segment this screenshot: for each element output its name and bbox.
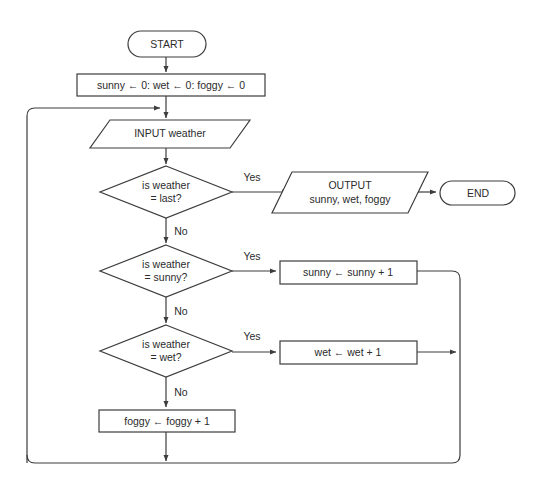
node-input-weather[interactable]: INPUT weather <box>90 120 250 148</box>
node-increment-sunny-label: sunny ← sunny + 1 <box>303 266 393 278</box>
node-output-counts[interactable]: OUTPUT sunny, wet, foggy <box>272 172 428 213</box>
node-init-label: sunny ← 0: wet ← 0: foggy ← 0 <box>97 79 245 91</box>
node-decision-last-label-line1: is weather <box>142 179 190 191</box>
node-decision-wet-label-line1: is weather <box>142 338 190 350</box>
node-decision-last[interactable]: is weather = last? <box>100 166 232 218</box>
node-input-weather-label: INPUT weather <box>134 127 206 139</box>
edge-label-no-last: No <box>174 225 188 237</box>
edge-label-no-wet: No <box>174 386 188 398</box>
node-output-counts-label-line2: sunny, wet, foggy <box>310 193 392 205</box>
node-decision-wet-label-line2: = wet? <box>150 351 181 363</box>
node-start-label: START <box>150 38 184 50</box>
flowchart-canvas: START sunny ← 0: wet ← 0: foggy ← 0 INPU… <box>0 0 537 492</box>
node-end-label: END <box>467 187 490 199</box>
node-decision-sunny-label-line2: = sunny? <box>145 271 188 283</box>
edge-sunny-to-loop <box>417 271 460 455</box>
edge-label-yes-wet: Yes <box>243 330 260 342</box>
node-increment-foggy-label: foggy ← foggy + 1 <box>124 415 210 427</box>
node-increment-wet[interactable]: wet ← wet + 1 <box>280 341 417 364</box>
edge-label-yes-last: Yes <box>243 171 260 183</box>
edge-bottom-rail <box>27 455 460 463</box>
node-increment-foggy[interactable]: foggy ← foggy + 1 <box>99 410 235 432</box>
node-decision-wet[interactable]: is weather = wet? <box>100 325 232 377</box>
node-increment-wet-label: wet ← wet + 1 <box>314 346 382 358</box>
edge-label-no-sunny: No <box>174 305 188 317</box>
node-init[interactable]: sunny ← 0: wet ← 0: foggy ← 0 <box>77 74 265 96</box>
node-start[interactable]: START <box>128 31 206 57</box>
node-decision-sunny[interactable]: is weather = sunny? <box>100 245 232 297</box>
edge-label-yes-sunny: Yes <box>243 250 260 262</box>
node-decision-last-label-line2: = last? <box>150 192 181 204</box>
flowchart-svg: START sunny ← 0: wet ← 0: foggy ← 0 INPU… <box>0 0 537 492</box>
node-end[interactable]: END <box>440 181 515 205</box>
node-increment-sunny[interactable]: sunny ← sunny + 1 <box>280 261 417 284</box>
node-output-counts-label-line1: OUTPUT <box>328 179 372 191</box>
node-decision-sunny-label-line1: is weather <box>142 258 190 270</box>
